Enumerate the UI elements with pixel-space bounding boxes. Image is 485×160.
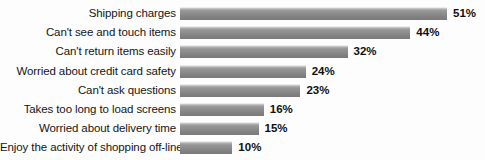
value-label: 44%	[416, 23, 439, 42]
bar-row: Can't ask questions23%	[0, 81, 485, 100]
category-label: Worried about delivery time	[0, 119, 176, 138]
bar-fill	[180, 122, 259, 135]
bar-row: Shipping charges51%	[0, 4, 485, 23]
value-label: 32%	[354, 42, 377, 61]
bar	[180, 45, 348, 58]
bar-chart: Shipping charges51%Can't see and touch i…	[0, 0, 485, 160]
bar	[180, 122, 259, 135]
bar-fill	[180, 7, 447, 20]
category-label: Takes too long to load screens	[0, 100, 176, 119]
bar	[180, 26, 410, 39]
bar-fill	[180, 141, 232, 154]
bar-row: Can't return items easily32%	[0, 42, 485, 61]
bar	[180, 84, 300, 97]
bar-fill	[180, 103, 264, 116]
bar-row: Enjoy the activity of shopping off-line1…	[0, 138, 485, 157]
category-label: Can't return items easily	[0, 42, 176, 61]
bar-fill	[180, 26, 410, 39]
value-label: 51%	[453, 4, 476, 23]
bar	[180, 103, 264, 116]
category-label: Can't see and touch items	[0, 23, 176, 42]
bar-row: Can't see and touch items44%	[0, 23, 485, 42]
category-label: Worried about credit card safety	[0, 62, 176, 81]
value-label: 15%	[265, 119, 288, 138]
category-label: Can't ask questions	[0, 81, 176, 100]
bar-fill	[180, 84, 300, 97]
bar-fill	[180, 65, 306, 78]
value-label: 23%	[306, 81, 329, 100]
category-label: Shipping charges	[0, 4, 176, 23]
value-label: 24%	[312, 62, 335, 81]
bar-fill	[180, 45, 348, 58]
bar-row: Worried about credit card safety24%	[0, 62, 485, 81]
bar-row: Takes too long to load screens16%	[0, 100, 485, 119]
bar	[180, 65, 306, 78]
category-label: Enjoy the activity of shopping off-line	[0, 138, 176, 157]
bar-row: Worried about delivery time15%	[0, 119, 485, 138]
value-label: 10%	[238, 138, 261, 157]
bar	[180, 7, 447, 20]
bar	[180, 141, 232, 154]
value-label: 16%	[270, 100, 293, 119]
